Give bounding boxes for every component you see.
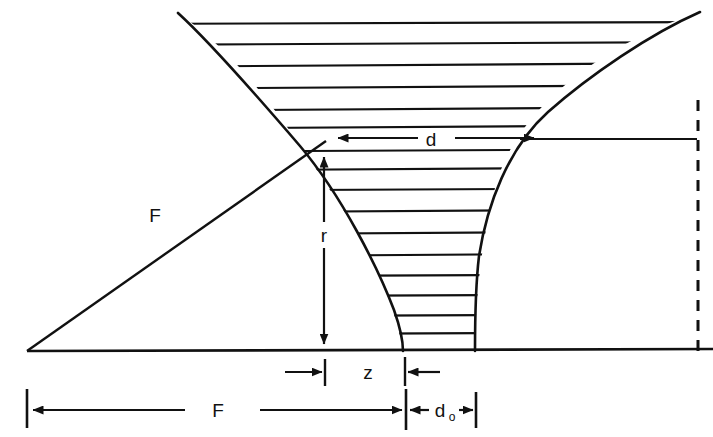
left-hyperbola-wall — [178, 13, 403, 351]
optical-axis-baseline — [27, 349, 713, 351]
focal-length-diagonal-label: F — [149, 205, 161, 226]
beam-radius-label: r — [321, 225, 328, 246]
rayleigh-range-dimension: z — [285, 357, 440, 386]
waist-diameter-subscript-label: o — [449, 410, 456, 424]
diagonal-focal-ray — [27, 141, 326, 351]
beam-hatching — [100, 22, 713, 335]
waist-diameter-dimension: d o — [410, 392, 476, 428]
focal-length-baseline-label: F — [212, 400, 224, 421]
rayleigh-range-label: z — [363, 362, 373, 383]
waist-diameter-label: d — [435, 400, 446, 421]
beam-geometry-svg: d r F z F d o — [0, 0, 713, 437]
beam-envelope — [178, 12, 700, 351]
beam-diameter-dimension: d — [338, 129, 534, 150]
beam-geometry-figure: d r F z F d o — [0, 0, 713, 437]
focal-length-baseline-dimension: F — [27, 389, 406, 430]
beam-radius-dimension: r — [321, 157, 328, 344]
beam-diameter-label: d — [426, 129, 437, 150]
